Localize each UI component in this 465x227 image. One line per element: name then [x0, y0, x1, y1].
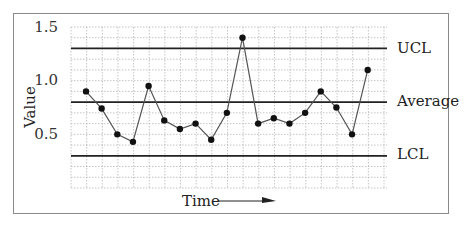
ucl-label: UCL: [397, 39, 431, 57]
data-point: [333, 104, 339, 110]
data-point: [192, 120, 198, 126]
lcl-label: LCL: [397, 145, 428, 163]
data-point: [98, 105, 104, 111]
data-points: [83, 35, 371, 146]
y-axis-label: Value: [21, 86, 39, 129]
data-point: [208, 137, 214, 143]
data-point: [145, 83, 151, 89]
data-point: [239, 35, 245, 41]
data-point: [255, 120, 261, 126]
data-point: [286, 120, 292, 126]
data-point: [365, 67, 371, 73]
data-point: [83, 88, 89, 94]
average-label: Average: [396, 92, 459, 110]
data-point: [302, 110, 308, 116]
control-chart: 1.5 1.0 0.5 Value UCL Average LCL Time: [0, 0, 465, 227]
data-line: [86, 38, 368, 142]
grid: [71, 27, 387, 188]
data-point: [114, 131, 120, 137]
data-point: [271, 115, 277, 121]
data-point: [177, 126, 183, 132]
time-arrow-icon: [218, 197, 276, 203]
x-axis-label: Time: [182, 192, 220, 210]
data-point: [130, 139, 136, 145]
y-tick-1-5: 1.5: [34, 18, 58, 36]
data-point: [224, 110, 230, 116]
data-point: [161, 117, 167, 123]
data-point: [349, 131, 355, 137]
data-point: [318, 88, 324, 94]
